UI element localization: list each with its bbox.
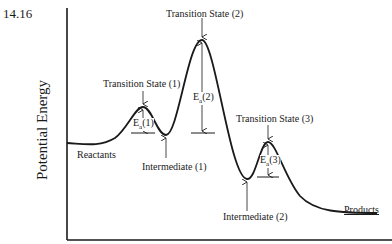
- ea3-label: Ea(3): [260, 155, 281, 168]
- diagram-graphics: [0, 0, 392, 244]
- energy-curve: [67, 40, 377, 213]
- ea1-label: Ea(1): [133, 118, 154, 131]
- ts2-label: Transition State (2): [166, 9, 243, 19]
- intermediate2-label: Intermediate (2): [223, 212, 288, 222]
- products-label: Products: [344, 205, 379, 215]
- ts1-label: Transition State (1): [103, 79, 180, 89]
- intermediate1-label: Intermediate (1): [142, 162, 207, 172]
- energy-diagram: 14.16 Potential Energy Reactan: [0, 0, 392, 244]
- ea2-label: Ea(2): [193, 92, 214, 105]
- reactants-label: Reactants: [77, 150, 116, 160]
- ts3-label: Transition State (3): [236, 114, 313, 124]
